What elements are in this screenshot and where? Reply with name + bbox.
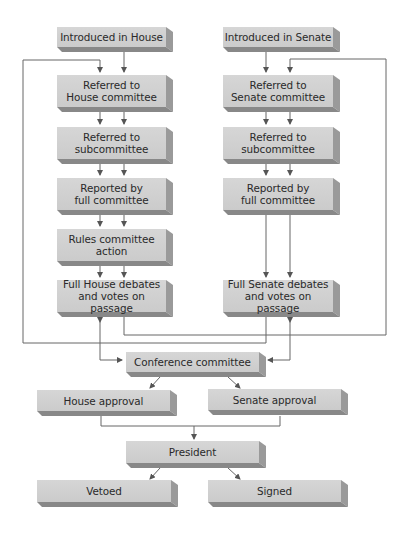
senate-subcommittee-box: Referred to subcommittee [223, 127, 333, 159]
rules-committee-label: Rules committee action [57, 229, 166, 261]
house-approval-box: House approval [37, 390, 170, 411]
introduced-in-house-box: Introduced in House [57, 27, 166, 47]
introduced-in-senate-label: Introduced in Senate [223, 27, 333, 47]
house-full-debate-label: Full House debates and votes on passage [57, 280, 166, 312]
house-subcommittee-box: Referred to subcommittee [57, 127, 166, 159]
house-subcommittee-label: Referred to subcommittee [57, 127, 166, 159]
president-box: President [126, 441, 259, 463]
senate-committee-box: Referred to Senate committee [223, 75, 333, 107]
senate-approval-box: Senate approval [208, 389, 341, 410]
introduced-in-house-label: Introduced in House [57, 27, 166, 47]
signed-label: Signed [208, 480, 341, 502]
senate-approval-label: Senate approval [208, 389, 341, 410]
president-label: President [126, 441, 259, 463]
conference-committee-box: Conference committee [126, 352, 259, 372]
senate-subcommittee-label: Referred to subcommittee [223, 127, 333, 159]
senate-reported-label: Reported by full committee [223, 178, 333, 210]
legislative-process-flowchart: Introduced in House Referred to House co… [0, 0, 405, 533]
house-full-debate-box: Full House debates and votes on passage [57, 280, 166, 312]
house-approval-label: House approval [37, 390, 170, 411]
house-committee-box: Referred to House committee [57, 75, 166, 107]
rules-committee-box: Rules committee action [57, 229, 166, 261]
house-reported-box: Reported by full committee [57, 178, 166, 210]
introduced-in-senate-box: Introduced in Senate [223, 27, 333, 47]
house-reported-label: Reported by full committee [57, 178, 166, 210]
house-committee-label: Referred to House committee [57, 75, 166, 107]
conference-committee-label: Conference committee [126, 352, 259, 372]
vetoed-box: Vetoed [37, 480, 171, 502]
senate-committee-label: Referred to Senate committee [223, 75, 333, 107]
vetoed-label: Vetoed [37, 480, 171, 502]
signed-box: Signed [208, 480, 341, 502]
senate-full-debate-box: Full Senate debates and votes on passage [223, 280, 333, 312]
senate-full-debate-label: Full Senate debates and votes on passage [223, 280, 333, 312]
senate-reported-box: Reported by full committee [223, 178, 333, 210]
